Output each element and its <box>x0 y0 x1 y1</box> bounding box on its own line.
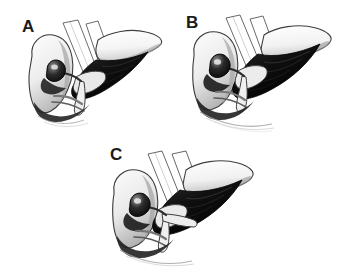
panel-c: C <box>96 134 268 264</box>
gallbladder-highlight <box>214 59 221 65</box>
gallbladder <box>46 60 65 81</box>
panel-b: B <box>180 8 337 133</box>
tissue-wisp-3 <box>214 122 272 132</box>
panel-a-label: A <box>22 18 34 35</box>
panel-b-illustration <box>180 8 337 133</box>
panel-b-label: B <box>186 14 198 31</box>
figure-root: A <box>0 0 337 268</box>
panel-a-illustration <box>14 10 174 135</box>
panel-c-label: C <box>110 146 122 163</box>
gallbladder-highlight <box>134 198 141 204</box>
panel-a: A <box>14 10 174 135</box>
gallbladder-highlight <box>51 64 58 69</box>
tissue-wisp-2 <box>44 122 88 127</box>
